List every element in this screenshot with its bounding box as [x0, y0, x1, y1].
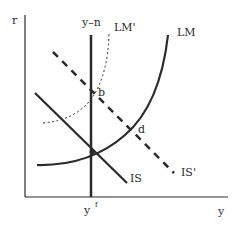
is-prime-curve: [53, 52, 174, 173]
full-employment-label: y–n: [81, 16, 101, 29]
x-tick-superscript: f: [95, 201, 99, 209]
is-prime-label: IS': [181, 166, 196, 179]
x-axis-label: y: [217, 205, 225, 218]
y-axis-label: r: [12, 14, 18, 27]
is-curve: [35, 93, 127, 183]
is-label: IS: [130, 172, 142, 185]
lm-label: LM: [177, 26, 196, 39]
is-lm-diagram: r y y–n y f LM' LM b d IS IS': [0, 0, 237, 226]
x-tick-label: y: [83, 204, 91, 217]
lm-prime-label: LM': [114, 21, 136, 34]
point-b-label: b: [98, 86, 105, 99]
point-d-label: d: [138, 123, 145, 136]
equilibrium-point: [90, 150, 95, 155]
